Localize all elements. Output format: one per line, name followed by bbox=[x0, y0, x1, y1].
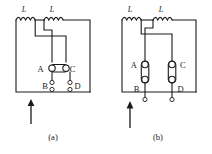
supply-arrow-b-head bbox=[127, 101, 134, 109]
coil-winding-a-right bbox=[44, 17, 63, 20]
lamp-electrode-a-A bbox=[49, 65, 55, 71]
lamp-electrode-b-D bbox=[169, 76, 175, 82]
circuit-diagram-svg: A C B D L L bbox=[0, 0, 212, 154]
wire-b-outer-left bbox=[122, 20, 196, 92]
terminal-a-D-lower bbox=[68, 87, 72, 91]
terminal-pair-a-B bbox=[50, 72, 54, 92]
label-b-terminal-B: B bbox=[134, 84, 140, 94]
lamp-electrode-a-C bbox=[63, 65, 69, 71]
terminal-pair-a-D bbox=[68, 72, 72, 92]
supply-arrow-a-head bbox=[28, 99, 35, 106]
lamp-electrode-b-A bbox=[142, 61, 148, 67]
label-b-terminal-D: D bbox=[178, 84, 184, 94]
label-b-terminal-A: A bbox=[131, 60, 138, 70]
lamp-b-left-vertical bbox=[141, 61, 149, 83]
inductor-a-left bbox=[16, 17, 35, 20]
terminal-b-D-dot bbox=[170, 97, 174, 101]
inductor-a-right bbox=[44, 17, 63, 20]
coil-winding-a-left bbox=[16, 17, 35, 20]
supply-arrow-b bbox=[127, 101, 134, 128]
label-a-terminal-D: D bbox=[74, 81, 80, 91]
supply-arrow-a bbox=[28, 99, 35, 124]
label-a-inductor-left: L bbox=[21, 5, 27, 14]
coil-winding-b-right bbox=[153, 17, 172, 20]
figure-root: A C B D L L bbox=[0, 0, 212, 154]
inductor-b-left bbox=[122, 17, 141, 20]
inductor-b-right bbox=[153, 17, 172, 20]
lamp-a-horizontal bbox=[49, 65, 69, 73]
label-a-inductor-right: L bbox=[49, 5, 55, 14]
coil-winding-b-left bbox=[122, 17, 141, 20]
label-a-terminal-B: B bbox=[42, 81, 48, 91]
caption-panel-b: (b) bbox=[153, 132, 163, 142]
wire-a-tap-right bbox=[35, 20, 66, 62]
panel-a: A C B D L L bbox=[16, 5, 90, 142]
label-a-terminal-A: A bbox=[37, 64, 44, 74]
lamp-electrode-b-B bbox=[142, 76, 148, 82]
wire-b-tap-left bbox=[145, 20, 153, 61]
label-b-inductor-left: L bbox=[127, 5, 133, 14]
wire-b-tap-right bbox=[141, 20, 172, 61]
terminal-a-D-upper bbox=[68, 80, 72, 84]
label-b-inductor-right: L bbox=[158, 5, 164, 14]
label-a-terminal-C: C bbox=[70, 64, 76, 74]
lamp-electrode-b-C bbox=[169, 61, 175, 67]
wire-a-tap-left bbox=[44, 20, 52, 62]
terminal-a-B-lower bbox=[50, 87, 54, 91]
panel-b: A B C D L L bbox=[122, 5, 196, 142]
label-b-terminal-C: C bbox=[180, 60, 186, 70]
caption-panel-a: (a) bbox=[48, 132, 58, 142]
terminal-b-B-dot bbox=[143, 97, 147, 101]
lamp-b-right-vertical bbox=[168, 61, 176, 83]
terminal-a-B-upper bbox=[50, 80, 54, 84]
